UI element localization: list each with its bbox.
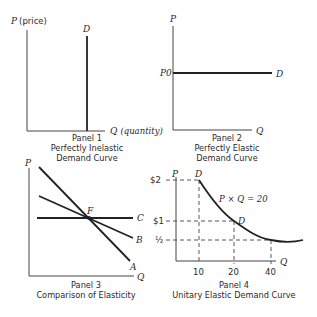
p2-price-label: P0 (159, 68, 172, 78)
p2-curve-label: D (275, 69, 283, 79)
p2-y-label: P (169, 14, 177, 24)
p3-x-label: Q (137, 272, 145, 282)
p3-caption-1: Panel 3 (71, 280, 101, 290)
p2-x-label: Q (256, 126, 264, 136)
panel-3: P F C B A Q Panel 3 Comparison of Elasti… (24, 158, 145, 300)
p1-x-label: Q(quantity) (110, 126, 163, 136)
p3-f-label: F (86, 206, 94, 216)
p4-ytick-2: $2 (150, 175, 161, 185)
p3-c-label: C (137, 213, 144, 223)
p1-curve-label: D (82, 24, 90, 34)
p4-xtick-10: 10 (193, 267, 204, 277)
p4-xtick-40: 40 (265, 267, 276, 277)
p2-caption-3: Demand Curve (196, 153, 257, 163)
p4-y-label: P (171, 169, 179, 179)
p3-caption-2: Comparison of Elasticity (36, 290, 135, 300)
p4-d-label-mid: D (237, 216, 245, 226)
p4-caption-1: Panel 4 (219, 280, 249, 290)
p4-equation: P × Q = 20 (218, 194, 268, 204)
p4-ytick-1: $1 (153, 216, 164, 226)
p4-xtick-20: 20 (228, 267, 239, 277)
p2-caption-1: Panel 2 (212, 133, 242, 143)
p1-caption-2: Perfectly Inelastic (51, 143, 124, 153)
p4-demand-curve (199, 180, 303, 242)
p1-caption-3: Demand Curve (56, 153, 117, 163)
p4-caption-2: Unitary Elastic Demand Curve (172, 290, 295, 300)
p3-line-a (39, 167, 130, 261)
elasticity-diagrams: P(price) D Q(quantity) Panel 1 Perfectly… (0, 0, 317, 317)
p3-a-label: A (129, 262, 137, 272)
panel-2: P P0 D Q Panel 2 Perfectly Elastic Deman… (159, 14, 283, 163)
p4-x-label: Q (280, 257, 288, 267)
panel-1: P(price) D Q(quantity) Panel 1 Perfectly… (10, 16, 163, 163)
p4-axes (176, 177, 276, 261)
p2-caption-2: Perfectly Elastic (194, 143, 259, 153)
p1-axes (27, 30, 105, 131)
p2-axes (173, 26, 252, 130)
p4-ytick-half: ½ (155, 235, 163, 245)
p3-b-label: B (135, 235, 143, 245)
p3-intersection-point (87, 216, 91, 220)
p1-caption-1: Panel 1 (72, 133, 102, 143)
panel-4: P $2 $1 ½ 10 20 40 D D P × Q = 20 Q Pane… (150, 169, 303, 300)
p3-y-label: P (24, 158, 32, 168)
p4-d-label-top: D (194, 169, 202, 179)
p1-y-label: P(price) (10, 16, 47, 26)
p3-axes (29, 168, 134, 276)
p3-line-b (39, 196, 133, 238)
